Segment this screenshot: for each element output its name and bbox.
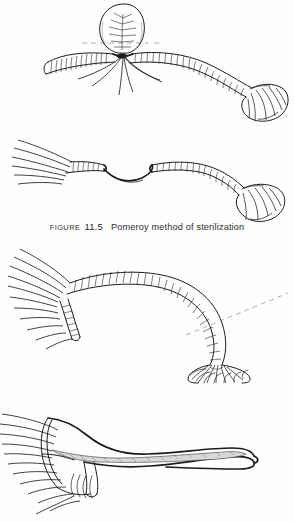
panel-1-illustration	[0, 0, 294, 130]
fimbriae-right	[242, 84, 288, 121]
figure-caption: FIGURE11.5Pomeroy method of sterilizatio…	[0, 216, 294, 236]
panel-2-illustration	[0, 128, 294, 210]
panel-clamped-tube	[0, 400, 294, 522]
panel-3-illustration	[0, 243, 294, 383]
mesosalpinx-left	[12, 140, 72, 184]
mesosalpinx-fan-left	[8, 249, 72, 349]
clamp-upper-edge	[48, 418, 254, 456]
panel-loop-excised	[0, 128, 294, 210]
tube-right-lower-border	[130, 62, 246, 97]
figure-page: FIGURE11.5Pomeroy method of sterilizatio…	[0, 0, 294, 522]
accessory-branch	[60, 299, 80, 341]
tube-inner-border	[67, 284, 214, 365]
loop-central-stem	[122, 14, 123, 50]
caption-line: FIGURE11.5Pomeroy method of sterilizatio…	[50, 221, 245, 232]
tube-stump-right-upper	[152, 162, 244, 188]
suture-thread-between-stumps	[104, 165, 153, 181]
caption-label: FIGURE	[50, 223, 81, 232]
tube-left-upper-border	[48, 53, 113, 62]
panel-knuckle-ligated	[0, 0, 294, 130]
fimbrial-trumpet	[188, 365, 250, 383]
tube-right-upper-border	[131, 52, 252, 88]
reference-dash-line	[186, 293, 288, 335]
panel-intact-tube	[0, 243, 294, 383]
mesosalpinx-fan-panel4	[0, 414, 80, 511]
knot-body	[117, 53, 128, 58]
trailing-thread	[36, 496, 74, 514]
tube-segmentation-ribs	[74, 271, 221, 360]
tube-stump-right-segments	[157, 162, 236, 193]
tube-left-end-cap	[44, 62, 48, 74]
caption-title: Pomeroy method of sterilization	[111, 222, 244, 232]
caption-number: 11.5	[84, 221, 103, 232]
tube-outer-border	[70, 272, 226, 365]
panel-4-illustration	[0, 400, 294, 522]
